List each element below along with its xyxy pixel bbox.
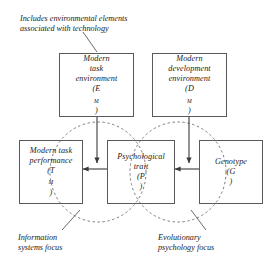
node-modern-task-environment-line3: environment (76, 74, 118, 84)
node-modern-task-performance-symbol: (TM) (30, 166, 73, 198)
node-genotype-symbol: (G) (215, 167, 247, 187)
node-psychological-trait[interactable]: Psychological trait (P) (107, 140, 175, 204)
evolutionary-psychology-focus-label: Evolutionary psychology focus (158, 233, 270, 254)
top-note-annotation: Includes environmental elements associat… (20, 14, 185, 35)
node-modern-task-environment-line1: Modern (76, 54, 118, 64)
node-modern-task-performance[interactable]: Modern task performance (TM) (19, 140, 83, 204)
node-modern-development-environment[interactable]: Modern development environment (DM) (152, 53, 227, 117)
node-modern-task-performance-line2: performance (30, 156, 73, 166)
note-leader-line (83, 32, 97, 52)
diagram-canvas: Includes environmental elements associat… (0, 0, 273, 275)
node-modern-task-environment-symbol: (EM) (76, 84, 118, 116)
node-modern-task-environment-line2: task (76, 64, 118, 74)
node-modern-development-environment-line2: development (168, 64, 210, 74)
node-modern-task-environment[interactable]: Modern task environment (EM) (59, 53, 134, 117)
evolutionary-psychology-leader-line (191, 210, 206, 230)
node-psychological-trait-line1: Psychological (117, 152, 165, 162)
node-modern-development-environment-symbol: (DM) (168, 84, 210, 116)
node-psychological-trait-line2: trait (117, 162, 165, 172)
node-modern-development-environment-line3: environment (168, 74, 210, 84)
node-modern-development-environment-line1: Modern (168, 54, 210, 64)
node-psychological-trait-symbol: (P) (117, 172, 165, 192)
information-systems-focus-label: Information systems focus (18, 233, 114, 254)
node-genotype-line1: Genotype (215, 157, 247, 167)
node-genotype[interactable]: Genotype (G) (199, 140, 263, 204)
node-modern-task-performance-line1: Modern task (30, 146, 73, 156)
